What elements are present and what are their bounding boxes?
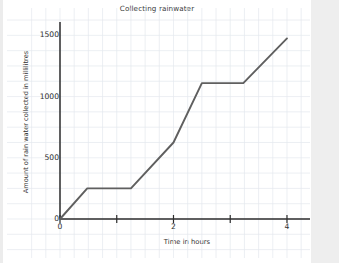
y-tick-1000: 1000 (3, 92, 59, 102)
y-tick-500: 500 (3, 153, 59, 163)
y-tick-1500: 1500 (3, 30, 59, 40)
y-tick-label: 1000 (29, 92, 59, 101)
chart-figure: Collecting rainwater Amount of rain wate… (3, 0, 311, 263)
x-tick-label-2: 2 (161, 222, 185, 231)
vertical-gridlines (32, 8, 302, 258)
x-tick-label-4: 4 (275, 222, 299, 231)
y-tick-label: 500 (29, 153, 59, 162)
screenshot-root: Collecting rainwater Amount of rain wate… (0, 0, 339, 263)
x-tick-label-0: 0 (48, 222, 72, 231)
y-tick-label: 1500 (29, 30, 59, 39)
page-edge-right (311, 0, 339, 263)
